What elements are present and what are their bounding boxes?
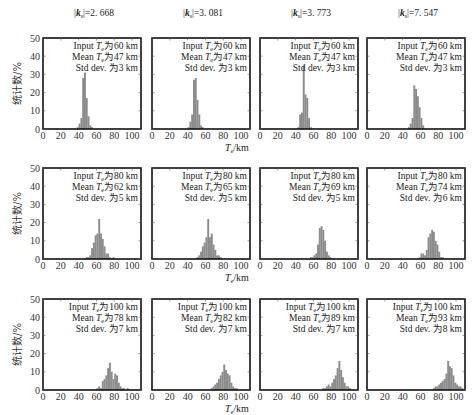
x-tick-label: 80 xyxy=(326,130,336,141)
x-tick-label: 80 xyxy=(433,260,443,271)
column-title: |ks|=3. 773 xyxy=(291,8,331,19)
y-tick-label: 50 xyxy=(30,163,40,174)
histogram-bar xyxy=(197,100,199,129)
panel-annotation: Mean Te为47 km xyxy=(289,51,356,63)
panel-annotation: Std dev. 为3 km xyxy=(76,62,139,73)
panel-annotation: Input Te为100 km xyxy=(178,301,248,313)
x-tick-label: 40 xyxy=(398,130,408,141)
x-tick-label: 100 xyxy=(342,130,357,141)
histogram-bar xyxy=(438,385,440,390)
x-tick-label: 60 xyxy=(308,260,318,271)
histogram-panel: 02040608010001020304050统计数/%Input Te为60 … xyxy=(11,33,141,142)
x-tick-label: 100 xyxy=(449,260,464,271)
histogram-bar xyxy=(102,381,104,390)
histogram-bar xyxy=(200,252,202,259)
panel-annotation: Std dev. 为5 km xyxy=(293,192,356,203)
panel-annotation: Std dev. 为3 km xyxy=(400,62,463,73)
y-tick-label: 40 xyxy=(30,312,40,323)
x-tick-label: 0 xyxy=(41,130,46,141)
histogram-bar xyxy=(447,361,449,390)
x-tick-label: 80 xyxy=(433,391,443,402)
histogram-panel: 02040608010001020304050统计数/%Input Te为100… xyxy=(11,294,141,403)
histogram-panel: 020406080100Input Te为60 kmMean Te为47 kmS… xyxy=(365,38,466,141)
histogram-bar xyxy=(116,375,118,390)
histogram-bar xyxy=(202,246,204,259)
x-tick-label: 100 xyxy=(125,260,140,271)
x-axis-title: Te/km xyxy=(225,403,249,415)
histogram-panel: 020406080100Input Te为100 kmMean Te为82 km… xyxy=(150,299,251,402)
x-tick-label: 100 xyxy=(125,391,140,402)
histogram-bar xyxy=(319,228,321,259)
histogram-bar xyxy=(335,375,337,390)
x-tick-label: 40 xyxy=(74,260,84,271)
histogram-bar xyxy=(82,78,84,129)
x-tick-label: 40 xyxy=(291,391,301,402)
x-tick-label: 60 xyxy=(308,130,318,141)
x-tick-label: 40 xyxy=(398,391,408,402)
y-tick-label: 10 xyxy=(30,105,40,116)
histogram-bar xyxy=(338,361,340,390)
histogram-bar xyxy=(214,250,216,259)
panel-annotation: Mean Te为62 km xyxy=(72,181,139,193)
histogram-bar xyxy=(436,244,438,259)
x-tick-label: 0 xyxy=(258,260,263,271)
x-tick-label: 60 xyxy=(415,260,425,271)
y-axis-title: 统计数/% xyxy=(11,323,23,366)
y-tick-label: 10 xyxy=(30,366,40,377)
histogram-bar xyxy=(413,85,415,129)
histogram-bar xyxy=(449,366,451,390)
panel-annotation: Mean Te为69 km xyxy=(289,181,356,193)
x-tick-label: 0 xyxy=(365,260,370,271)
panel-annotation: Std dev. 为7 km xyxy=(293,323,356,334)
histogram-bar xyxy=(193,80,195,129)
histogram-bar xyxy=(454,383,456,390)
histogram-bar xyxy=(104,246,106,259)
x-tick-label: 20 xyxy=(165,260,175,271)
x-tick-label: 0 xyxy=(365,130,370,141)
histogram-bar xyxy=(102,239,104,259)
y-tick-label: 50 xyxy=(30,33,40,44)
x-tick-label: 100 xyxy=(342,260,357,271)
x-tick-label: 100 xyxy=(234,130,249,141)
x-tick-label: 40 xyxy=(183,130,193,141)
x-tick-label: 60 xyxy=(308,391,318,402)
histogram-bar xyxy=(456,385,458,390)
histogram-bar xyxy=(98,219,100,259)
histogram-bar xyxy=(444,379,446,390)
histogram-bar xyxy=(337,368,339,390)
panel-annotation: Std dev. 为7 km xyxy=(76,323,139,334)
x-tick-label: 20 xyxy=(165,130,175,141)
histogram-bar xyxy=(221,372,223,390)
x-tick-label: 0 xyxy=(150,391,155,402)
histogram-bar xyxy=(342,377,344,390)
x-tick-label: 20 xyxy=(380,130,390,141)
panel-annotation: Mean Te为89 km xyxy=(289,312,356,324)
x-tick-label: 60 xyxy=(415,391,425,402)
x-tick-label: 60 xyxy=(200,391,210,402)
panel-annotation: Mean Te为47 km xyxy=(396,51,463,63)
x-tick-label: 80 xyxy=(109,260,119,271)
histogram-bar xyxy=(218,379,220,390)
x-tick-label: 20 xyxy=(56,130,66,141)
x-tick-label: 0 xyxy=(41,260,46,271)
x-axis-title: Te/km xyxy=(225,272,249,284)
x-tick-label: 40 xyxy=(74,391,84,402)
histogram-bar xyxy=(209,237,211,259)
x-tick-label: 100 xyxy=(234,391,249,402)
x-tick-label: 20 xyxy=(273,260,283,271)
panel-annotation: Input Te为80 km xyxy=(291,170,356,182)
histogram-bar xyxy=(109,363,111,390)
column-title: |ks|=7. 547 xyxy=(398,8,438,19)
x-tick-label: 100 xyxy=(449,391,464,402)
y-tick-label: 20 xyxy=(30,217,40,228)
histogram-bar xyxy=(86,98,88,129)
histogram-bar xyxy=(451,368,453,390)
histogram-bar xyxy=(412,118,414,129)
histogram-bar xyxy=(435,241,437,259)
panel-annotation: Input Te为60 km xyxy=(183,40,248,52)
histogram-bar xyxy=(91,248,93,259)
histogram-bar xyxy=(328,385,330,390)
histogram-bar xyxy=(433,232,435,259)
histogram-bar xyxy=(453,375,455,390)
histogram-bar xyxy=(118,383,120,390)
